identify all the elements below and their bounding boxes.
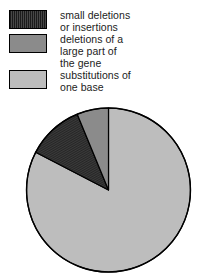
legend-swatch-substitutions	[9, 70, 47, 89]
pie-chart-figure: small deletions or insertions deletions …	[0, 0, 199, 280]
legend-label-substitutions: substitutions of one base	[60, 69, 131, 93]
pie-chart-area	[0, 100, 199, 280]
legend-label-small-deletions-or-insertions: small deletions or insertions	[60, 9, 130, 33]
legend-item-small-deletions-or-insertions: small deletions or insertions	[9, 9, 130, 33]
chart-legend: small deletions or insertions deletions …	[0, 0, 199, 100]
legend-item-substitutions: substitutions of one base	[9, 69, 131, 93]
legend-swatch-large-deletions	[9, 34, 47, 53]
legend-item-large-deletions: deletions of a large part of the gene	[9, 33, 123, 70]
legend-swatch-small-deletions-or-insertions	[9, 10, 47, 29]
pie-chart-svg	[0, 100, 199, 280]
pie-slices	[26, 108, 190, 272]
legend-label-large-deletions: deletions of a large part of the gene	[60, 33, 123, 70]
